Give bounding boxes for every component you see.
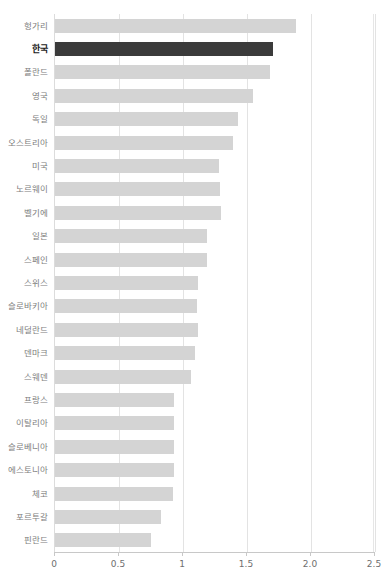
bar-row [55,341,373,364]
bar [55,299,197,313]
bar [55,393,174,407]
bar-row [55,14,373,37]
category-label: 덴마크 [0,349,48,358]
bar [55,136,233,150]
category-label: 스웨덴 [0,373,48,382]
bar-row [55,505,373,528]
bar-row [55,37,373,60]
bar [55,206,221,220]
bar [55,229,207,243]
bar [55,19,296,33]
bar-row [55,225,373,248]
bar-row [55,131,373,154]
category-label: 체코 [0,490,48,499]
category-label: 폴란드 [0,68,48,77]
bar-row [55,84,373,107]
category-label: 포르투갈 [0,513,48,522]
bar-row [55,529,373,552]
category-label: 스페인 [0,256,48,265]
bar-row [55,412,373,435]
bar-row [55,435,373,458]
x-tick-label: 1 [179,559,185,569]
bar [55,65,270,79]
x-tick-mark [374,552,375,556]
bar [55,487,173,501]
x-tick-label: 0 [51,559,57,569]
bar [55,112,238,126]
x-tick-mark [246,552,247,556]
category-label: 슬로바키아 [0,302,48,311]
category-label: 오스트리아 [0,139,48,148]
bar-row [55,458,373,481]
bar-row [55,248,373,271]
bar-row [55,201,373,224]
category-label: 영국 [0,92,48,101]
category-label: 네덜란드 [0,326,48,335]
x-tick-mark [54,552,55,556]
plot-area [54,14,374,552]
bar [55,510,161,524]
bar [55,440,174,454]
category-label: 슬로베니아 [0,443,48,452]
category-label: 이탈리아 [0,419,48,428]
bar [55,89,253,103]
bar [55,159,219,173]
bar-chart: 00.511.52.02.5 헝가리한국폴란드영국독일오스트리아미국노르웨이벨기… [0,0,388,586]
x-tick-label: 1.5 [239,559,253,569]
category-label: 벨기에 [0,209,48,218]
bar [55,253,207,267]
bar-row [55,365,373,388]
bar [55,276,198,290]
bar [55,463,174,477]
x-axis [54,552,374,553]
category-label: 한국 [0,45,48,54]
bar-rows [55,14,373,552]
bar-row [55,388,373,411]
bar [55,416,174,430]
x-tick-label: 0.5 [111,559,125,569]
category-label: 미국 [0,162,48,171]
bar-row [55,271,373,294]
bar-row [55,295,373,318]
bar [55,346,195,360]
bar [55,323,198,337]
bar-row [55,482,373,505]
x-tick-label: 2.0 [303,559,317,569]
bar [55,533,151,547]
x-tick-mark [310,552,311,556]
x-tick-mark [182,552,183,556]
category-label: 독일 [0,115,48,124]
x-tick-label: 2.5 [367,559,381,569]
bar-highlighted [55,42,273,56]
category-label: 노르웨이 [0,185,48,194]
category-label: 일본 [0,232,48,241]
bar-row [55,318,373,341]
bar-row [55,108,373,131]
category-label: 헝가리 [0,22,48,31]
category-label: 핀란드 [0,536,48,545]
bar [55,182,220,196]
category-label: 스위스 [0,279,48,288]
bar-row [55,61,373,84]
bar [55,370,191,384]
category-label: 에스토니아 [0,466,48,475]
category-label: 프랑스 [0,396,48,405]
bar-row [55,154,373,177]
gridline [375,14,376,552]
bar-row [55,178,373,201]
x-tick-mark [118,552,119,556]
